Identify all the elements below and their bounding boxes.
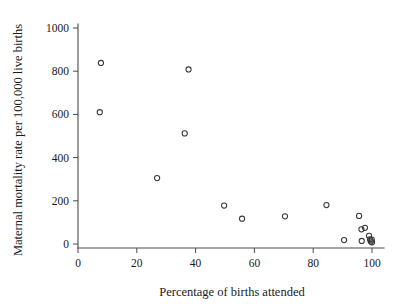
data-point (97, 110, 102, 115)
plot-canvas: 02004006008001000020406080100 Percentage… (0, 0, 399, 304)
data-point (154, 176, 159, 181)
data-point (239, 216, 244, 221)
y-axis-tick-label: 600 (52, 108, 70, 120)
y-axis-tick-label: 1000 (46, 22, 69, 34)
x-axis-title: Percentage of births attended (159, 285, 305, 299)
data-point (182, 131, 187, 136)
scatter-chart: 02004006008001000020406080100 Percentage… (0, 0, 399, 304)
data-point (324, 203, 329, 208)
y-axis-tick-label: 800 (52, 65, 70, 77)
x-axis-tick-label: 100 (363, 257, 381, 269)
x-axis-tick-label: 0 (75, 257, 81, 269)
data-point (186, 67, 191, 72)
data-point (341, 238, 346, 243)
x-axis-tick-label: 40 (190, 257, 202, 269)
axes-group (78, 24, 384, 248)
x-axis-tick-label: 60 (249, 257, 261, 269)
data-points-group (97, 60, 374, 244)
x-axis-tick-label: 80 (307, 257, 319, 269)
data-point (98, 60, 103, 65)
y-axis-title: Maternal mortality rate per 100,000 live… (11, 24, 25, 256)
y-axis-tick-label: 0 (63, 238, 69, 250)
data-point (356, 213, 361, 218)
data-point (222, 203, 227, 208)
ticks-group (73, 28, 372, 253)
data-point (282, 214, 287, 219)
y-axis-tick-label: 200 (52, 195, 70, 207)
x-axis-tick-label: 20 (131, 257, 143, 269)
tick-labels-group: 02004006008001000020406080100 (46, 22, 381, 269)
data-point (359, 238, 364, 243)
y-axis-tick-label: 400 (52, 152, 70, 164)
